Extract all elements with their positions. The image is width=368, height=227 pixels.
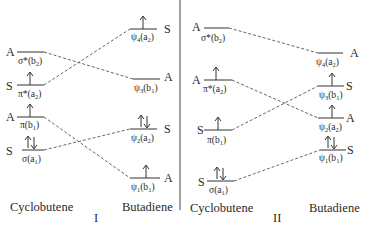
- level-sigma: S σ(a1): [198, 167, 234, 196]
- symmetry-label: A: [164, 171, 173, 185]
- correlation-line: [44, 129, 130, 150]
- electron-up-arrow-icon: [143, 165, 149, 178]
- level-psi1: S ψ1(b1): [319, 136, 354, 164]
- electron-up-arrow-icon: [329, 105, 335, 118]
- orbital-label: ψ1(b1): [319, 153, 343, 164]
- caption-cyclobutene: Cyclobutene: [10, 200, 74, 214]
- diagram-II: A σ*(b2) A π*(a2) S π(b1) S σ(a1) A ψ4(a…: [190, 20, 360, 225]
- symmetry-label: S: [197, 123, 204, 137]
- symmetry-label: S: [6, 79, 13, 93]
- orbital-label: σ(a1): [22, 154, 41, 165]
- electron-pair-arrows-icon: [25, 136, 37, 149]
- orbital-label: ψ1(b1): [131, 182, 155, 193]
- diagram-I: A σ*(b2) S π*(a2) A π(b1) S σ(a1) S ψ4(a…: [6, 16, 173, 225]
- correlation-diagram: A σ*(b2) S π*(a2) A π(b1) S σ(a1) S ψ4(a…: [0, 0, 368, 227]
- level-psi2: S ψ2(a2): [130, 115, 171, 144]
- level-psi4: A ψ4(a2): [316, 46, 359, 68]
- symmetry-label: A: [346, 111, 355, 125]
- electron-up-arrow-icon: [215, 117, 221, 130]
- correlation-line: [44, 29, 130, 85]
- orbital-label: ψ4(a2): [131, 32, 154, 43]
- caption-cyclobutene: Cyclobutene: [190, 201, 254, 215]
- electron-pair-arrows-icon: [214, 167, 226, 180]
- electron-pair-arrows-icon: [325, 136, 337, 149]
- orbital-label: ψ3(b1): [319, 90, 343, 101]
- correlation-line: [234, 150, 320, 181]
- diagram-number: I: [94, 211, 98, 225]
- symmetry-label: A: [6, 110, 15, 124]
- level-pi: S π(b1): [197, 117, 232, 146]
- symmetry-label: S: [6, 144, 13, 158]
- electron-up-arrow-icon: [329, 73, 335, 86]
- level-sigma-star: A σ*(b2): [192, 20, 229, 44]
- symmetry-label: A: [350, 46, 359, 60]
- level-sigma: S σ(a1): [6, 136, 44, 165]
- level-pi-star: S π*(a2): [6, 72, 44, 100]
- orbital-label: ψ3(b1): [134, 83, 158, 94]
- level-psi3: S ψ3(b1): [318, 73, 353, 101]
- orbital-label: σ(a1): [209, 185, 228, 196]
- caption-butadiene: Butadiene: [309, 201, 360, 215]
- level-psi4: S ψ4(a2): [130, 16, 171, 43]
- orbital-label: ψ2(a2): [131, 133, 154, 144]
- correlation-line: [232, 80, 318, 118]
- symmetry-label: S: [164, 22, 171, 36]
- level-sigma-star: A σ*(b2): [6, 45, 44, 67]
- symmetry-label: A: [192, 73, 201, 87]
- electron-pair-arrows-icon: [138, 115, 150, 128]
- level-psi3: A ψ3(b1): [133, 70, 173, 94]
- orbital-label: π*(a2): [203, 84, 226, 95]
- electron-up-arrow-icon: [213, 67, 219, 80]
- level-pi: A π(b1): [6, 104, 44, 131]
- level-psi1: A ψ1(b1): [130, 165, 173, 193]
- symmetry-label: A: [164, 70, 173, 84]
- correlation-line: [232, 86, 318, 130]
- orbital-label: σ*(b2): [18, 56, 42, 67]
- caption-butadiene: Butadiene: [122, 200, 173, 214]
- level-psi2: A ψ2(a2): [318, 105, 355, 133]
- correlation-line: [44, 52, 133, 79]
- electron-up-arrow-icon: [140, 16, 146, 29]
- diagram-number: II: [273, 211, 281, 225]
- correlation-line: [229, 28, 318, 53]
- symmetry-label: S: [346, 79, 353, 93]
- symmetry-label: A: [192, 20, 201, 34]
- level-pi-star: A π*(a2): [192, 67, 232, 95]
- correlation-line: [44, 117, 130, 178]
- electron-up-arrow-icon: [27, 104, 33, 117]
- symmetry-label: S: [198, 175, 205, 189]
- symmetry-label: A: [6, 45, 15, 59]
- orbital-label: σ*(b2): [201, 33, 225, 44]
- symmetry-label: S: [164, 122, 171, 136]
- symmetry-label: S: [347, 143, 354, 157]
- orbital-label: ψ2(a2): [319, 122, 342, 133]
- electron-up-arrow-icon: [27, 72, 33, 85]
- orbital-label: π(b1): [20, 120, 39, 131]
- orbital-label: π(b1): [207, 135, 226, 146]
- orbital-label: ψ4(a2): [316, 57, 339, 68]
- orbital-label: π*(a2): [18, 89, 41, 100]
